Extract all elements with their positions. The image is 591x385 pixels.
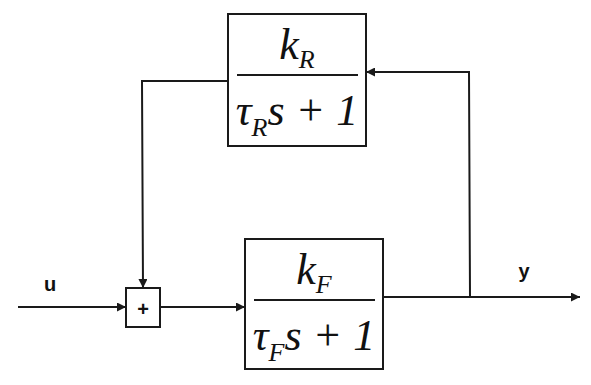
block-diagram: kR τRs + 1 kF τFs + 1 + u y (0, 0, 591, 385)
svg-text:kF: kF (296, 245, 333, 299)
forward-tau-subscript: F (268, 338, 286, 367)
forward-denominator-rest: s + 1 (284, 311, 375, 360)
forward-numerator-subscript: F (315, 270, 333, 299)
input-label-u: u (44, 273, 56, 295)
output-label-y: y (518, 260, 530, 282)
feedback-denominator-rest: s + 1 (267, 86, 358, 135)
feedback-block: kR τRs + 1 (228, 14, 366, 146)
svg-text:τFs + 1: τFs + 1 (253, 311, 375, 367)
forward-block: kF τFs + 1 (245, 239, 383, 369)
summing-junction: + (126, 288, 160, 327)
feedback-return-line (142, 81, 228, 288)
svg-text:kR: kR (279, 20, 315, 74)
plus-sign: + (137, 298, 149, 320)
feedback-numerator: k (279, 20, 300, 69)
forward-numerator: k (296, 245, 317, 294)
feedback-numerator-subscript: R (298, 45, 315, 74)
feedback-tau-subscript: R (251, 113, 268, 142)
svg-text:τRs + 1: τRs + 1 (236, 86, 358, 142)
feedback-branch-line (366, 72, 470, 297)
